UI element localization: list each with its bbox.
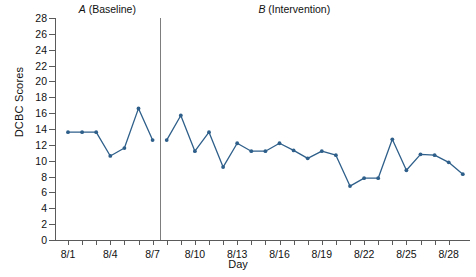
x-tick [322,240,323,245]
y-tick-label: 0 [21,235,47,245]
x-tick [124,240,125,245]
chart-figure: DCBC Scores Day 024681012141618202224262… [0,0,476,277]
data-point-marker [334,153,338,157]
x-tick [308,240,309,245]
data-point-marker [94,130,98,134]
y-tick-label: 16 [21,108,47,118]
data-point-marker [461,172,465,176]
data-point-marker [66,130,70,134]
x-tick [350,240,351,245]
x-axis-line [55,240,470,241]
x-tick [167,240,168,245]
data-point-marker [376,176,380,180]
data-point-marker [306,156,310,160]
y-tick-label: 28 [21,13,47,23]
x-tick [378,240,379,245]
x-tick-label: 8/22 [344,248,384,260]
data-point-marker [179,114,183,118]
y-tick-label: 24 [21,45,47,55]
data-point-marker [235,141,239,145]
x-tick [449,240,450,245]
x-tick [153,240,154,245]
x-tick-label: 8/25 [386,248,426,260]
x-tick [421,240,422,245]
y-tick-label: 4 [21,203,47,213]
y-tick-label: 10 [21,156,47,166]
y-tick-label: 18 [21,92,47,102]
data-point-marker [362,176,366,180]
x-tick [392,240,393,245]
y-tick-label: 12 [21,140,47,150]
data-series-dcbc-scores [55,18,469,240]
x-tick [435,240,436,245]
data-point-marker [80,130,84,134]
x-tick [406,240,407,245]
x-tick [96,240,97,245]
x-tick-label: 8/10 [175,248,215,260]
x-tick [251,240,252,245]
x-tick [294,240,295,245]
phase-b-label: B (Intervention) [258,3,330,15]
data-point-marker [165,138,169,142]
x-tick-label: 8/7 [133,248,173,260]
data-point-marker [447,160,451,164]
x-tick [139,240,140,245]
x-tick [223,240,224,245]
x-tick [336,240,337,245]
x-tick [280,240,281,245]
data-point-marker [292,149,296,153]
data-point-marker [390,137,394,141]
x-tick [181,240,182,245]
data-point-marker [249,149,253,153]
y-tick-label: 20 [21,76,47,86]
x-tick-label: 8/4 [90,248,130,260]
x-tick [364,240,365,245]
x-tick-label: 8/28 [429,248,469,260]
x-tick-label: 8/1 [48,248,88,260]
y-tick [49,240,55,241]
data-point-marker [123,146,127,150]
x-tick [68,240,69,245]
x-tick-label: 8/19 [302,248,342,260]
y-tick-label: 26 [21,29,47,39]
data-point-marker [405,168,409,172]
y-tick-label: 8 [21,172,47,182]
x-tick [195,240,196,245]
x-tick-label: 8/13 [217,248,257,260]
plot-area: 0246810121416182022242628 8/18/48/78/108… [55,18,469,240]
data-point-marker [320,149,324,153]
data-point-marker [433,153,437,157]
data-point-marker [278,141,282,145]
phase-a-label: A (Baseline) [79,3,136,15]
x-tick-label: 8/16 [260,248,300,260]
x-tick [82,240,83,245]
data-point-marker [137,106,141,110]
phase-b-line [167,116,463,187]
data-point-marker [108,154,112,158]
x-tick [265,240,266,245]
y-tick-label: 14 [21,124,47,134]
data-point-marker [151,138,155,142]
x-tick [110,240,111,245]
data-point-marker [221,165,225,169]
y-tick-label: 2 [21,219,47,229]
data-point-marker [207,130,211,134]
y-tick-label: 6 [21,187,47,197]
y-tick-label: 22 [21,61,47,71]
data-point-marker [348,184,352,188]
data-point-marker [264,149,268,153]
data-point-marker [193,149,197,153]
x-tick [237,240,238,245]
data-point-marker [419,152,423,156]
x-tick [209,240,210,245]
